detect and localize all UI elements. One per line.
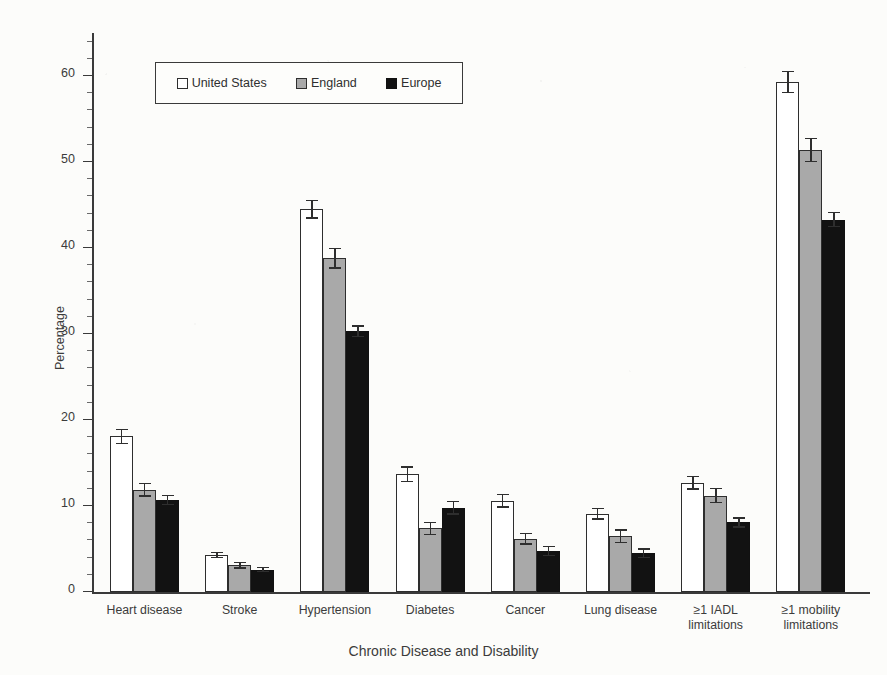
y-axis-tick: 40 <box>83 247 92 248</box>
bar-eur <box>727 513 750 592</box>
bar-eur <box>251 563 274 592</box>
y-axis-minor-tick <box>87 58 92 59</box>
y-axis-minor-tick <box>87 488 92 489</box>
bar-rect <box>133 490 156 592</box>
bar-rect <box>251 570 274 592</box>
bar-rect <box>704 496 727 592</box>
bar-rect <box>396 474 419 592</box>
bar-rect <box>681 483 704 592</box>
error-bar <box>715 488 716 503</box>
bar-us <box>776 67 799 592</box>
bar-us <box>681 472 704 592</box>
error-bar <box>216 552 217 559</box>
bar-group: ≥1 IADLlimitations <box>681 33 750 592</box>
bar-rect <box>442 508 465 592</box>
y-axis-minor-tick <box>87 92 92 93</box>
bar-rect <box>491 501 514 592</box>
chart-legend: United States England Europe <box>155 62 463 104</box>
error-bar <box>738 517 739 527</box>
bar-group: ≥1 mobilitylimitations <box>776 33 845 592</box>
y-axis-tick: 20 <box>83 419 92 420</box>
y-axis-minor-tick <box>87 539 92 540</box>
y-axis-tick-label: 30 <box>61 324 75 338</box>
legend-label-europe: Europe <box>401 76 441 90</box>
error-bar <box>525 533 526 545</box>
bar-rect <box>346 331 369 592</box>
bar-rect <box>205 555 228 592</box>
x-axis-title: Chronic Disease and Disability <box>0 643 887 659</box>
y-axis-tick: 0 <box>83 591 92 592</box>
y-axis-tick-label: 50 <box>61 152 75 166</box>
bar-rect <box>537 551 560 592</box>
bar-eur <box>822 208 845 592</box>
x-axis-category-line: limitations <box>751 618 871 633</box>
y-axis-tick-label: 0 <box>68 582 75 596</box>
y-axis-minor-tick <box>87 178 92 179</box>
error-bar <box>144 483 145 497</box>
error-bar <box>239 562 240 569</box>
error-bar <box>833 212 834 227</box>
y-axis-tick-label: 20 <box>61 410 75 424</box>
bar-rect <box>300 209 323 592</box>
bar-eng <box>704 484 727 592</box>
error-bar <box>643 548 644 558</box>
y-axis-minor-tick <box>87 436 92 437</box>
bar-us <box>205 548 228 592</box>
error-bar <box>311 200 312 219</box>
error-bar <box>597 508 598 520</box>
bar-group: Heart disease <box>110 33 179 592</box>
error-bar <box>620 529 621 543</box>
error-bar <box>407 466 408 481</box>
bar-group: Hypertension <box>300 33 369 592</box>
y-axis-minor-tick <box>87 41 92 42</box>
x-axis-category-line: ≥1 mobility <box>751 603 871 618</box>
bar-rect <box>419 528 442 592</box>
y-axis-tick: 60 <box>83 75 92 76</box>
error-bar <box>548 546 549 556</box>
bar-group: Stroke <box>205 33 274 592</box>
y-axis-tick: 10 <box>83 505 92 506</box>
bar-rect <box>727 522 750 592</box>
y-axis-minor-tick <box>87 402 92 403</box>
error-bar <box>357 325 358 337</box>
y-axis-minor-tick <box>87 385 92 386</box>
y-axis-minor-tick <box>87 574 92 575</box>
error-bar <box>502 494 503 508</box>
bar-us <box>491 490 514 592</box>
bar-eng <box>133 479 156 592</box>
bar-group: Lung disease <box>586 33 655 592</box>
bar-us <box>586 504 609 592</box>
bar-rect <box>632 553 655 592</box>
y-axis-minor-tick <box>87 299 92 300</box>
error-bar <box>334 248 335 269</box>
error-bar <box>167 495 168 505</box>
bar-chart-figure: Percentage Chronic Disease and Disabilit… <box>0 0 887 675</box>
bar-eng <box>514 529 537 592</box>
y-axis-minor-tick <box>87 109 92 110</box>
bar-eng <box>323 244 346 592</box>
error-bar <box>453 501 454 515</box>
y-axis-minor-tick <box>87 367 92 368</box>
bar-eng <box>419 517 442 592</box>
y-axis-minor-tick <box>87 316 92 317</box>
bar-eur <box>632 544 655 592</box>
y-axis-tick-label: 10 <box>61 496 75 510</box>
bar-us <box>110 425 133 592</box>
y-axis-minor-tick <box>87 127 92 128</box>
bar-eng <box>228 558 251 592</box>
bar-rect <box>156 500 179 592</box>
y-axis-line <box>92 33 94 592</box>
y-axis-tick: 50 <box>83 161 92 162</box>
y-axis-tick: 30 <box>83 333 92 334</box>
y-axis-minor-tick <box>87 281 92 282</box>
y-axis-minor-tick <box>87 471 92 472</box>
error-bar <box>810 138 811 162</box>
x-axis-line <box>92 592 870 594</box>
bar-eur <box>156 491 179 592</box>
legend-item: United States <box>177 76 267 90</box>
y-axis-minor-tick <box>87 195 92 196</box>
legend-item: England <box>296 76 357 90</box>
legend-swatch-europe <box>386 78 397 89</box>
plot-area: 0102030405060 Heart diseaseStrokeHyperte… <box>92 33 870 592</box>
bar-rect <box>514 539 537 592</box>
